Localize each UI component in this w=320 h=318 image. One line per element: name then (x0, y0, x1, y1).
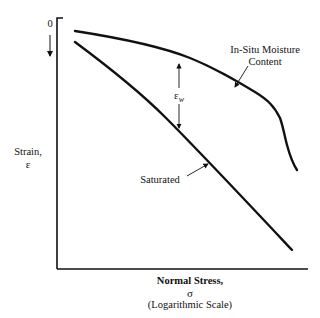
saturated-leader-arrow-icon (187, 164, 208, 176)
saturated-curve (75, 42, 292, 250)
y-axis-label-symbol: ε (8, 158, 48, 170)
epsilon-w-label: εw (169, 89, 189, 106)
y-axis-origin-label: 0 (45, 18, 55, 30)
y-axis (57, 18, 63, 269)
in-situ-label-line2: Content (210, 56, 320, 68)
x-axis-label-line3: (Logarithmic Scale) (120, 299, 260, 311)
in-situ-curve-label: In-Situ Moisture Content (210, 44, 320, 68)
y-axis-label: Strain, ε (8, 146, 48, 170)
epsilon-w-subscript: w (179, 95, 184, 104)
in-situ-label-line1: In-Situ Moisture (210, 44, 320, 56)
x-axis-label-line1: Normal Stress, (120, 275, 260, 287)
y-axis-label-line1: Strain, (8, 146, 48, 158)
x-axis-label-symbol: σ (120, 287, 260, 299)
saturated-curve-label: Saturated (135, 174, 185, 186)
x-axis-label: Normal Stress, σ (Logarithmic Scale) (120, 275, 260, 311)
